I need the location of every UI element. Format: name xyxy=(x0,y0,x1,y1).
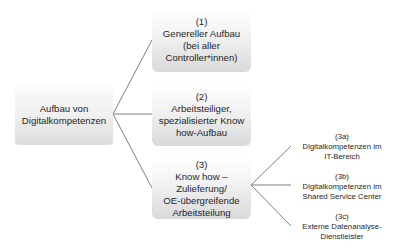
sub-branch-line: Shared Service Center xyxy=(290,192,394,202)
branch-number: (2) xyxy=(196,91,208,103)
root-line: Aufbau von xyxy=(40,103,89,115)
sub-branch-node-3a: (3a) Digitalkompetenzen im IT-Bereich xyxy=(290,132,394,162)
branch-node-3: (3) Know how – Zulieferung/ OE-übergreif… xyxy=(152,158,251,219)
branch-line: (bei aller xyxy=(183,40,220,52)
sub-branch-number: (3b) xyxy=(290,172,394,182)
branch-number: (3) xyxy=(196,159,208,171)
connector-3-to-3a xyxy=(251,146,291,185)
branch-node-1: (1) Genereller Aufbau (bei aller Control… xyxy=(152,8,251,72)
branch-line: Know how – xyxy=(175,171,227,183)
sub-branch-line: Digitalkompetenzen im xyxy=(290,142,394,152)
connector-root-to-1 xyxy=(113,40,152,114)
branch-line: OE-übergreifende xyxy=(163,195,239,207)
branch-number: (1) xyxy=(196,16,208,28)
connector-3-to-3c xyxy=(251,185,291,226)
branch-line: Arbeitsteiliger, xyxy=(171,103,231,115)
sub-branch-line: Dienstleister xyxy=(290,232,394,242)
branch-line: Zulieferung/ xyxy=(176,183,227,195)
connector-root-to-3 xyxy=(113,114,152,188)
sub-branch-number: (3c) xyxy=(290,212,394,222)
branch-line: Arbeitsteilung xyxy=(172,207,230,219)
branch-node-2: (2) Arbeitsteiliger, spezialisierter Kno… xyxy=(152,84,251,146)
sub-branch-line: Externe Datenanalyse- xyxy=(290,222,394,232)
sub-branch-number: (3a) xyxy=(290,132,394,142)
branch-line: Controller*innen) xyxy=(166,52,238,64)
branch-line: Genereller Aufbau xyxy=(163,28,240,40)
sub-branch-node-3c: (3c) Externe Datenanalyse- Dienstleister xyxy=(290,212,394,242)
root-line: Digitalkompetenzen xyxy=(22,115,106,127)
sub-branch-node-3b: (3b) Digitalkompetenzen im Shared Servic… xyxy=(290,172,394,202)
sub-branch-line: Digitalkompetenzen im xyxy=(290,182,394,192)
sub-branch-line: IT-Bereich xyxy=(290,152,394,162)
root-node: Aufbau von Digitalkompetenzen xyxy=(15,85,113,145)
branch-line: spezialisierter Know xyxy=(159,115,244,127)
branch-line: how-Aufbau xyxy=(176,127,227,139)
